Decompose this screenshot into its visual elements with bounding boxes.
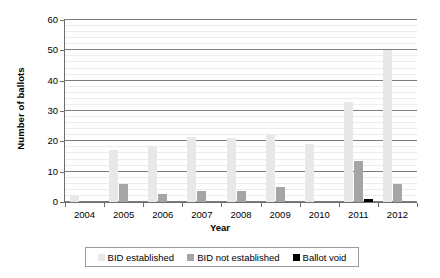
bar-group (109, 20, 138, 202)
bar-group (305, 20, 334, 202)
x-tick-mark (182, 203, 183, 207)
y-tick-label: 10 (30, 166, 58, 177)
x-tick-mark (143, 203, 144, 207)
bar (393, 184, 402, 202)
bar (109, 150, 118, 202)
legend-label: BID established (108, 252, 175, 263)
legend-item: Ballot void (293, 252, 347, 263)
y-tick-mark (60, 111, 65, 112)
bar (305, 144, 314, 202)
y-tick-mark (60, 172, 65, 173)
x-axis-line (64, 202, 417, 203)
chart-legend: BID establishedBID not establishedBallot… (85, 247, 359, 267)
bar-group (70, 20, 99, 202)
y-tick-mark (60, 141, 65, 142)
bar (266, 135, 275, 202)
x-tick-mark (378, 203, 379, 207)
bar (119, 184, 128, 202)
x-tick-mark (261, 203, 262, 207)
x-tick-mark (221, 203, 222, 207)
bar (227, 138, 236, 202)
y-tick-label: 0 (30, 196, 58, 207)
x-tick-mark (417, 203, 418, 207)
bar (197, 191, 206, 202)
bar (158, 194, 167, 202)
y-axis-title: Number of ballots (15, 39, 26, 179)
bar-group (344, 20, 373, 202)
bar (354, 161, 363, 202)
bar (187, 137, 196, 202)
legend-swatch-icon (293, 254, 300, 261)
bar-chart-figure: Number of ballots 0102030405060 20042005… (0, 0, 440, 278)
y-tick-mark (60, 20, 65, 21)
x-tick-mark (104, 203, 105, 207)
bar-group (227, 20, 256, 202)
y-tick-label: 60 (30, 14, 58, 25)
legend-item: BID established (98, 252, 175, 263)
legend-label: BID not established (197, 252, 279, 263)
bar-group (187, 20, 216, 202)
bar (276, 187, 285, 202)
x-tick-mark (65, 203, 66, 207)
y-tick-mark (60, 81, 65, 82)
legend-item: BID not established (187, 252, 279, 263)
bar-group (148, 20, 177, 202)
bar (344, 102, 353, 202)
y-tick-label: 30 (30, 105, 58, 116)
x-tick-mark (339, 203, 340, 207)
bar-group (266, 20, 295, 202)
legend-label: Ballot void (303, 252, 347, 263)
bar (237, 191, 246, 202)
y-tick-label: 40 (30, 75, 58, 86)
plot-area (65, 20, 417, 202)
x-tick-label: 2012 (373, 209, 421, 220)
bar (148, 146, 157, 202)
y-tick-label: 20 (30, 135, 58, 146)
y-tick-label: 50 (30, 44, 58, 55)
legend-swatch-icon (187, 254, 194, 261)
bar-group (383, 20, 412, 202)
y-tick-mark (60, 50, 65, 51)
bar (383, 50, 392, 202)
legend-swatch-icon (98, 254, 105, 261)
x-axis-title: Year (0, 222, 440, 233)
x-tick-mark (300, 203, 301, 207)
